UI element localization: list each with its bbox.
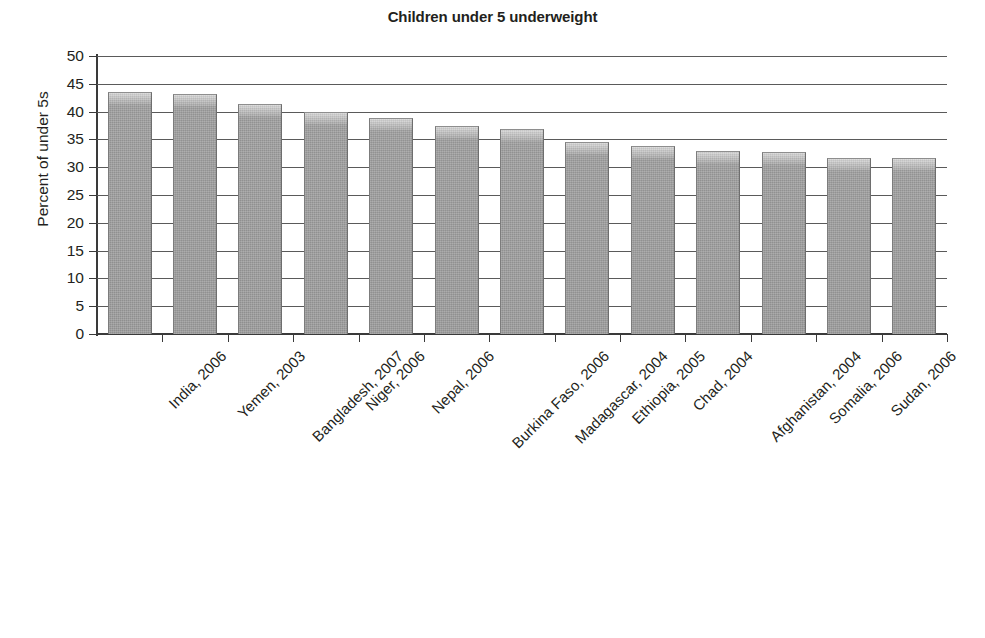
bar[interactable] bbox=[565, 142, 609, 334]
y-tick-30 bbox=[89, 167, 97, 168]
y-axis-title: Percent of under 5s bbox=[34, 59, 52, 259]
bar-top-highlight bbox=[697, 152, 739, 163]
y-tick-label-45: 45 bbox=[54, 76, 84, 92]
bar-top-highlight bbox=[893, 159, 935, 170]
bar-top-highlight bbox=[305, 113, 347, 124]
bar[interactable] bbox=[696, 151, 740, 334]
x-tick bbox=[293, 334, 294, 342]
gridline-40 bbox=[97, 112, 947, 113]
x-tick-label: Bangladesh, 2007 bbox=[310, 348, 407, 445]
bar[interactable] bbox=[827, 158, 871, 334]
x-tick bbox=[882, 334, 883, 342]
y-tick-25 bbox=[89, 195, 97, 196]
gridline-0 bbox=[97, 334, 947, 335]
bar-top-highlight bbox=[828, 159, 870, 170]
y-tick-label-15: 15 bbox=[54, 243, 84, 259]
bar-top-highlight bbox=[632, 147, 674, 158]
bar-top-highlight bbox=[239, 105, 281, 116]
bar[interactable] bbox=[304, 112, 348, 334]
y-tick-15 bbox=[89, 251, 97, 252]
y-tick-50 bbox=[89, 56, 97, 57]
bar[interactable] bbox=[435, 126, 479, 334]
bar[interactable] bbox=[369, 118, 413, 334]
x-tick-label: India, 2006 bbox=[165, 348, 229, 412]
bar[interactable] bbox=[631, 146, 675, 334]
gridline-45 bbox=[97, 84, 947, 85]
y-tick-40 bbox=[89, 112, 97, 113]
y-tick-0 bbox=[89, 334, 97, 335]
bar[interactable] bbox=[108, 92, 152, 334]
bar-top-highlight bbox=[174, 95, 216, 106]
bar-top-highlight bbox=[501, 130, 543, 141]
y-tick-45 bbox=[89, 84, 97, 85]
y-tick-label-10: 10 bbox=[54, 270, 84, 286]
x-tick bbox=[751, 334, 752, 342]
y-tick-35 bbox=[89, 139, 97, 140]
x-tick bbox=[489, 334, 490, 342]
x-tick bbox=[816, 334, 817, 342]
bar[interactable] bbox=[500, 129, 544, 334]
bar-top-highlight bbox=[566, 143, 608, 154]
bar[interactable] bbox=[892, 158, 936, 334]
x-tick bbox=[947, 334, 948, 342]
y-tick-label-5: 5 bbox=[54, 298, 84, 314]
y-tick-label-0: 0 bbox=[54, 326, 84, 342]
x-tick-label: Somalia, 2006 bbox=[826, 348, 905, 427]
y-tick-label-25: 25 bbox=[54, 187, 84, 203]
bar-top-highlight bbox=[370, 119, 412, 130]
x-tick bbox=[685, 334, 686, 342]
x-tick-label: Burkina Faso, 2006 bbox=[509, 348, 612, 451]
x-tick bbox=[555, 334, 556, 342]
bar[interactable] bbox=[762, 152, 806, 334]
x-tick bbox=[620, 334, 621, 342]
y-tick-10 bbox=[89, 278, 97, 279]
y-tick-5 bbox=[89, 306, 97, 307]
y-axis-tick-labels: 05101520253035404550 bbox=[52, 0, 84, 400]
y-tick-label-30: 30 bbox=[54, 159, 84, 175]
gridline-50 bbox=[97, 56, 947, 57]
x-tick-label: Nepal, 2006 bbox=[429, 348, 498, 417]
y-tick-label-35: 35 bbox=[54, 131, 84, 147]
y-tick-label-50: 50 bbox=[54, 48, 84, 64]
x-tick-label: Yemen, 2003 bbox=[235, 348, 308, 421]
x-tick bbox=[359, 334, 360, 342]
bar[interactable] bbox=[173, 94, 217, 334]
x-tick bbox=[424, 334, 425, 342]
chart-title: Children under 5 underweight bbox=[0, 8, 985, 25]
y-tick-label-20: 20 bbox=[54, 215, 84, 231]
chart-container: Children under 5 underweight Percent of … bbox=[0, 0, 985, 638]
bar-top-highlight bbox=[763, 153, 805, 164]
plot-area bbox=[97, 56, 947, 334]
x-tick bbox=[162, 334, 163, 342]
bar[interactable] bbox=[238, 104, 282, 334]
bar-top-highlight bbox=[436, 127, 478, 138]
y-tick-20 bbox=[89, 223, 97, 224]
x-tick bbox=[228, 334, 229, 342]
bar-top-highlight bbox=[109, 93, 151, 104]
y-tick-label-40: 40 bbox=[54, 104, 84, 120]
